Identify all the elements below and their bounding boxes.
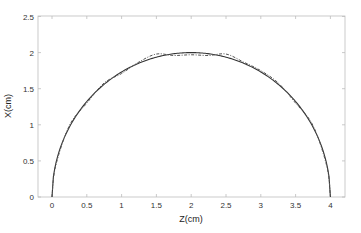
x-tick-label: 3.5 [290, 201, 302, 210]
y-tick-label: 2 [30, 49, 35, 58]
x-tick-label: 1 [119, 201, 124, 210]
y-tick-label: 2.5 [23, 13, 35, 22]
x-tick-label: 1.5 [151, 201, 163, 210]
chart: 00.511.522.533.54 00.511.522.5 Z(cm) X(c… [0, 0, 361, 233]
y-tick-label: 0.5 [23, 157, 35, 166]
y-tick-label: 1 [30, 121, 35, 130]
x-tick-label: 3 [259, 201, 264, 210]
x-tick-label: 2.5 [220, 201, 232, 210]
y-tick-label: 0 [30, 193, 35, 202]
x-tick-label: 4 [328, 201, 333, 210]
x-tick-label: 0.5 [81, 201, 93, 210]
x-tick-label: 2 [189, 201, 194, 210]
y-axis-label: X(cm) [3, 94, 13, 118]
x-tick-label: 0 [50, 201, 55, 210]
x-axis-label: Z(cm) [179, 214, 203, 224]
y-tick-label: 1.5 [23, 85, 35, 94]
